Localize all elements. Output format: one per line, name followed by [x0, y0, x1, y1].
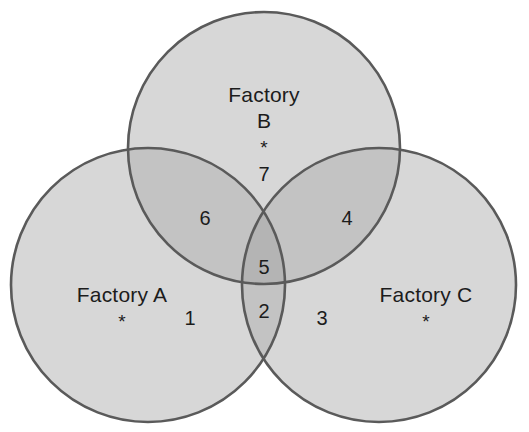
- region-count-a-only: 1: [178, 307, 202, 331]
- region-count-c-only: 3: [310, 307, 334, 331]
- set-label-factory-b-line2: B: [257, 109, 271, 134]
- venn-circles-graphic: [0, 0, 529, 432]
- region-count-b-only: 7: [258, 163, 269, 187]
- set-label-factory-c-text: Factory C: [380, 283, 473, 308]
- set-marker-factory-c: *: [422, 312, 429, 331]
- set-label-factory-b: Factory B * 7: [214, 83, 314, 186]
- set-marker-factory-b: *: [260, 138, 267, 157]
- region-count-a-b-only: 6: [193, 207, 217, 231]
- set-marker-factory-a: *: [118, 312, 125, 331]
- set-label-factory-b-line1: Factory: [228, 83, 299, 108]
- set-label-factory-a-text: Factory A: [77, 283, 168, 308]
- venn-diagram: Factory B * 7 Factory A * Factory C * 1 …: [0, 0, 529, 432]
- set-label-factory-a: Factory A *: [62, 283, 182, 331]
- region-count-a-c-only: 2: [252, 300, 276, 324]
- region-count-a-b-c: 5: [252, 256, 276, 280]
- set-label-factory-c: Factory C *: [366, 283, 486, 331]
- region-count-b-c-only: 4: [335, 207, 359, 231]
